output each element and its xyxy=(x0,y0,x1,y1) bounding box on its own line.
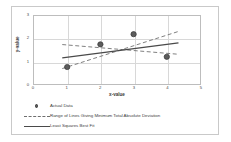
y-tick-3-text: 3 xyxy=(27,13,29,17)
data-layer xyxy=(34,16,200,84)
x-tick-1: 1 xyxy=(65,86,67,90)
x-tick-4: 4 xyxy=(166,86,168,90)
x-tick-3: 3 xyxy=(133,86,135,90)
legend-label-actual-data: Actual Data xyxy=(50,104,73,108)
dashed-line-icon xyxy=(24,116,50,117)
legend-key-dashed xyxy=(24,111,50,121)
x-axis-label: x-value xyxy=(33,93,201,98)
legend-key-solid xyxy=(24,121,50,131)
legend-item-least-squares: Least Squares Best Fit xyxy=(24,121,204,131)
dashed-line-falling xyxy=(62,45,178,55)
x-tick-0: 0 xyxy=(32,86,34,90)
legend-key-marker xyxy=(24,101,50,111)
chart-legend: Actual Data Range of Lines Giving Minimu… xyxy=(24,101,204,131)
marker-dot-icon xyxy=(35,104,38,107)
data-point xyxy=(164,54,169,59)
y-tick-1-text: 1 xyxy=(27,59,29,63)
data-point xyxy=(131,32,136,37)
solid-line-icon xyxy=(24,126,50,127)
legend-item-range-of-lines: Range of Lines Giving Minimum Total Abso… xyxy=(24,111,204,121)
chart-figure: y-value 3 2 1 0 0 1 2 3 4 5 xyxy=(0,0,231,142)
least-squares-line xyxy=(62,43,178,58)
data-point xyxy=(98,42,103,47)
y-tick-2-text: 2 xyxy=(27,36,29,40)
x-tick-5: 5 xyxy=(200,86,202,90)
data-point xyxy=(65,64,70,69)
y-axis-label: y-value xyxy=(16,36,21,52)
legend-label-least-squares: Least Squares Best Fit xyxy=(50,124,94,128)
y-tick-0-text: 0 xyxy=(27,83,29,87)
plot-area xyxy=(33,15,201,85)
legend-item-actual-data: Actual Data xyxy=(24,101,204,111)
legend-label-range-of-lines: Range of Lines Giving Minimum Total Abso… xyxy=(50,114,160,118)
x-tick-2: 2 xyxy=(99,86,101,90)
